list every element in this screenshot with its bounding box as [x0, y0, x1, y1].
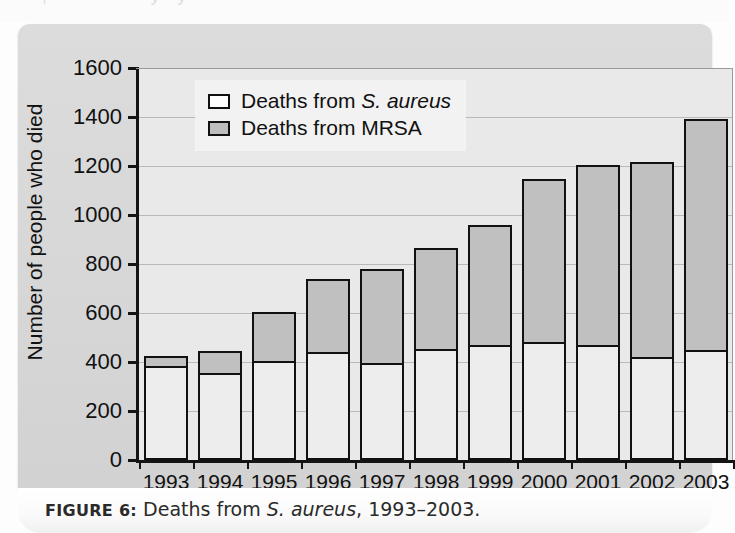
bar-2001: [576, 165, 619, 460]
legend-label-mrsa: Deaths from MRSA: [241, 115, 422, 142]
x-tick-mark: [517, 460, 519, 469]
cut-off-text-above-figure: , y y: [42, 0, 187, 7]
bar-2003: [684, 119, 727, 460]
x-tick-mark: [571, 460, 573, 469]
bar-segment-mrsa-1998: [414, 248, 457, 350]
page-bleed-strip: , y y: [0, 0, 729, 22]
bar-1998: [414, 248, 457, 460]
y-tick-label: 1200: [73, 153, 122, 179]
bar-segment-mrsa-2003: [684, 119, 727, 353]
plot-frame-top: [136, 68, 733, 69]
legend-swatch-s-aureus-icon: [208, 94, 230, 109]
bar-1995: [252, 312, 295, 460]
y-tick-label: 400: [85, 349, 122, 375]
bar-segment-mrsa-2000: [522, 179, 565, 344]
bar-segment-mrsa-1995: [252, 312, 295, 363]
bar-1993: [144, 356, 187, 460]
legend-label-s-aureus: Deaths from S. aureus: [241, 88, 451, 115]
x-tick-mark: [355, 460, 357, 469]
y-tick-label: 0: [110, 447, 122, 473]
y-tick-mark: [128, 116, 139, 119]
y-tick-mark: [128, 410, 139, 413]
bar-segment-mrsa-2001: [576, 165, 619, 347]
bar-1994: [198, 351, 241, 460]
x-tick-mark: [679, 460, 681, 469]
y-tick-mark: [128, 459, 139, 462]
y-tick-mark: [128, 312, 139, 315]
y-axis-title: Number of people who died: [23, 52, 47, 412]
bar-segment-mrsa-2002: [630, 162, 673, 359]
bar-segment-mrsa-1999: [468, 225, 511, 347]
legend-item-mrsa: Deaths from MRSA: [208, 115, 451, 142]
caption-part-before: Deaths from: [137, 498, 267, 520]
y-tick-mark: [128, 214, 139, 217]
x-tick-mark: [463, 460, 465, 469]
caption-species-name: S. aureus: [267, 498, 356, 520]
y-tick-label: 600: [85, 300, 122, 326]
legend-swatch-mrsa-icon: [208, 121, 230, 136]
figure-caption: FIGURE 6: Deaths from S. aureus, 1993–20…: [45, 498, 480, 520]
x-tick-mark: [625, 460, 627, 469]
x-tick-mark: [247, 460, 249, 469]
x-tick-mark: [193, 460, 195, 469]
plot-frame-right: [732, 68, 733, 460]
bar-2000: [522, 179, 565, 460]
bar-1999: [468, 225, 511, 460]
y-tick-label: 800: [85, 251, 122, 277]
y-tick-mark: [128, 361, 139, 364]
bar-segment-mrsa-1997: [360, 269, 403, 365]
y-tick-mark: [128, 165, 139, 168]
x-tick-mark: [301, 460, 303, 469]
legend-item-s-aureus: Deaths from S. aureus: [208, 88, 451, 115]
y-tick-label: 1600: [73, 55, 122, 81]
bar-segment-mrsa-1993: [144, 356, 187, 368]
x-tick-mark: [409, 460, 411, 469]
bar-segment-mrsa-1994: [198, 351, 241, 375]
figure-number-label: FIGURE 6:: [45, 501, 137, 520]
x-tick-mark: [139, 460, 141, 469]
bar-segment-mrsa-1996: [306, 279, 349, 355]
y-tick-label: 200: [85, 398, 122, 424]
y-tick-mark: [128, 263, 139, 266]
bar-2002: [630, 162, 673, 460]
figure-panel: 02004006008001000120014001600 1993199419…: [18, 24, 712, 488]
chart-legend: Deaths from S. aureus Deaths from MRSA: [196, 81, 465, 150]
y-tick-label: 1400: [73, 104, 122, 130]
caption-part-after: , 1993–2003.: [356, 498, 480, 520]
figure-caption-bar: FIGURE 6: Deaths from S. aureus, 1993–20…: [18, 488, 712, 533]
plot-area: 1993199419951996199719981999200020012002…: [136, 68, 733, 463]
y-tick-label: 1000: [73, 202, 122, 228]
bar-1997: [360, 269, 403, 460]
bar-1996: [306, 279, 349, 460]
